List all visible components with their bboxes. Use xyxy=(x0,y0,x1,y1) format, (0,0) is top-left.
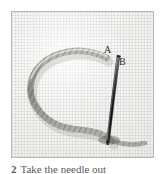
thread-loop xyxy=(31,50,112,141)
needlework-artwork xyxy=(12,12,153,157)
figure-caption: 2Take the needle out xyxy=(11,163,161,174)
point-label-b: B xyxy=(119,57,126,67)
point-label-a: A xyxy=(104,45,111,55)
figure-root: A B 2Take the needle out xyxy=(0,0,165,174)
caption-line: 2Take the needle out xyxy=(11,163,106,174)
needle xyxy=(106,56,120,145)
caption-step-number: 2 xyxy=(11,163,17,174)
photo-frame: A B xyxy=(11,11,154,158)
caption-text: Take the needle out xyxy=(21,163,107,174)
